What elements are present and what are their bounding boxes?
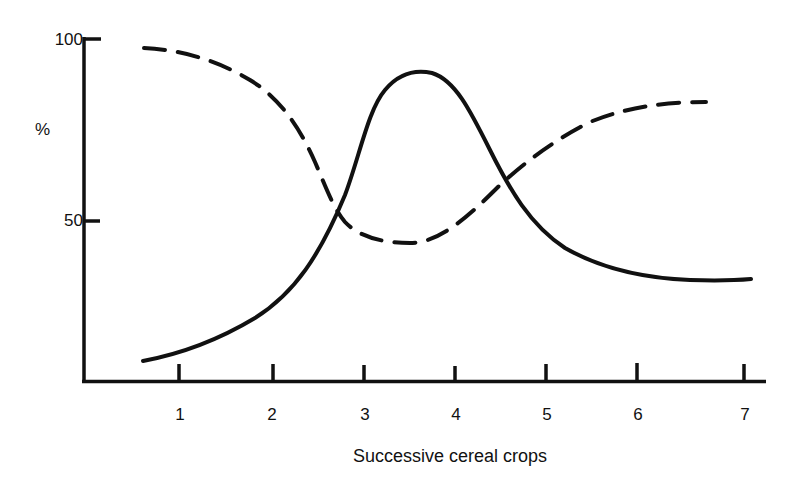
x-tick-label-2: 2 — [262, 405, 282, 425]
x-tick-label-4: 4 — [446, 405, 466, 425]
y-tick-label-50: 50 — [33, 211, 83, 231]
y-tick-label-100: 100 — [33, 30, 83, 50]
x-axis-title: Successive cereal crops — [0, 446, 788, 467]
x-tick-label-6: 6 — [628, 405, 648, 425]
dashed-series-line — [144, 48, 706, 243]
chart-canvas — [0, 0, 788, 481]
x-tick-label-7: 7 — [735, 405, 755, 425]
x-tick-label-3: 3 — [355, 405, 375, 425]
y-axis-unit-label: % — [35, 120, 50, 140]
x-tick-label-5: 5 — [537, 405, 557, 425]
x-tick-label-1: 1 — [170, 405, 190, 425]
solid-series-line — [143, 72, 751, 361]
axes — [82, 37, 766, 383]
